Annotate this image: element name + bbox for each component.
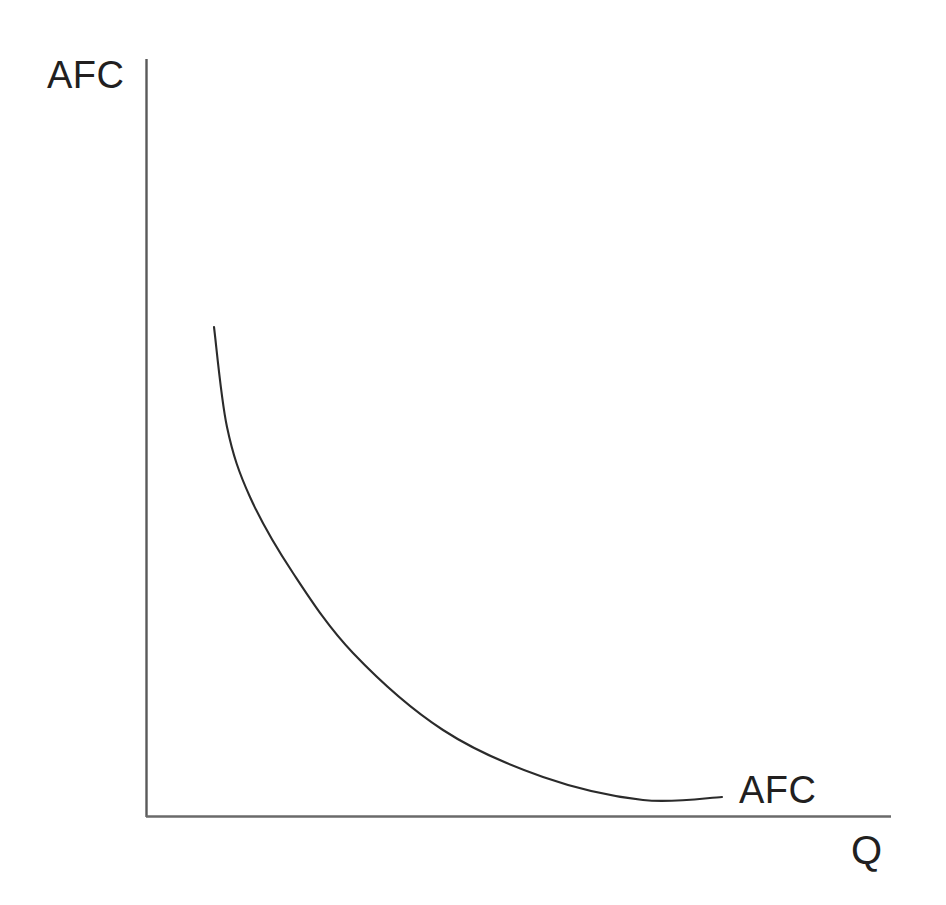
afc-curve-label: AFC (739, 770, 817, 810)
y-axis-title: AFC (47, 55, 125, 95)
chart-canvas: AFC Q AFC (0, 0, 946, 905)
afc-curve (214, 327, 722, 801)
x-axis-title: Q (851, 829, 883, 871)
